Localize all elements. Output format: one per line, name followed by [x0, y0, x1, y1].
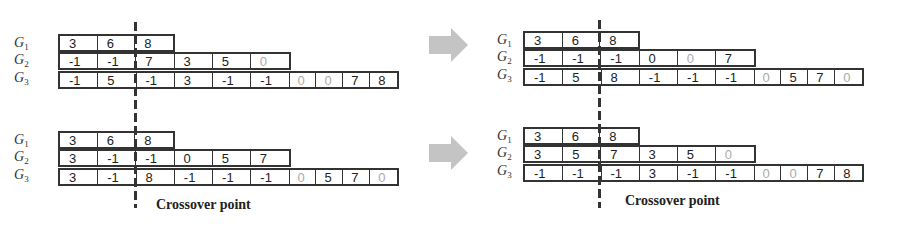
gene-cell: 8	[602, 70, 640, 84]
gene-cell: -1	[98, 170, 136, 184]
crossover-line-left	[134, 22, 137, 208]
label-g3: G3	[14, 166, 29, 188]
gene-cell: 3	[60, 36, 98, 50]
label-g3: G3	[497, 66, 512, 88]
gene-cell: 0	[835, 70, 862, 84]
gene-cell: 5	[316, 170, 343, 184]
gene-cell: 7	[251, 151, 289, 165]
gene-cell: -1	[213, 73, 251, 87]
gene-cell: 0	[370, 170, 397, 184]
gene-cell: 6	[563, 129, 601, 143]
gene-cell: 3	[175, 73, 213, 87]
gene-cell: 5	[563, 147, 601, 161]
gene-cell: -1	[525, 166, 563, 180]
gene-cell: 5	[781, 70, 808, 84]
gene-cell: 3	[525, 129, 563, 143]
crossover-caption-left: Crossover point	[156, 197, 251, 213]
gene-cell: 7	[343, 170, 370, 184]
gene-cell: -1	[175, 170, 213, 184]
gene-cell: 5	[213, 54, 251, 68]
gene-cell: 3	[525, 147, 563, 161]
gene-cell: -1	[678, 166, 716, 180]
gene-cell: -1	[137, 73, 175, 87]
gene-cell: 0	[175, 151, 213, 165]
label-g3: G3	[14, 69, 29, 91]
gene-cell: 5	[563, 70, 601, 84]
gene-cell: -1	[716, 70, 754, 84]
gene-cell: 6	[563, 33, 601, 47]
gene-cell: -1	[98, 54, 136, 68]
gene-cell: 0	[678, 51, 716, 65]
gene-cell: 8	[137, 170, 175, 184]
gene-cell: 7	[808, 166, 835, 180]
crossover-line-right	[598, 20, 601, 208]
gene-row-g2: -1 -1 7 3 5 0	[58, 52, 291, 70]
gene-cell: 0	[755, 166, 782, 180]
gene-cell: 7	[808, 70, 835, 84]
gene-cell: -1	[601, 51, 639, 65]
gene-row-g3: -1 5 -1 3 -1 -1 0 0 7 8	[58, 71, 399, 89]
gene-cell: -1	[251, 73, 289, 87]
gene-row-g3: -1 5 8 -1 -1 -1 0 5 7 0	[523, 68, 864, 86]
gene-cell: -1	[60, 54, 98, 68]
gene-cell: 0	[251, 54, 289, 68]
gene-cell: 8	[370, 73, 397, 87]
gene-cell: 0	[290, 73, 317, 87]
gene-row-g1: 3 6 8	[523, 31, 640, 49]
gene-row-g2: -1 -1 -1 0 0 7	[523, 49, 756, 67]
gene-cell: 8	[135, 36, 173, 50]
gene-cell: 0	[316, 73, 343, 87]
gene-row-g3: -1 -1 -1 3 -1 -1 0 0 7 8	[523, 164, 864, 182]
gene-cell: -1	[98, 151, 136, 165]
gene-row-g2: 3 5 7 3 5 0	[523, 145, 756, 163]
crossover-caption-right: Crossover point	[625, 193, 720, 209]
gene-cell: 3	[175, 54, 213, 68]
gene-cell: -1	[563, 51, 601, 65]
gene-cell: 3	[60, 151, 98, 165]
gene-cell: 5	[98, 73, 136, 87]
gene-row-g1: 3 6 8	[58, 34, 175, 52]
gene-row-g1: 3 6 8	[523, 127, 640, 145]
gene-cell: 7	[343, 73, 370, 87]
gene-cell: 5	[678, 147, 716, 161]
gene-cell: 0	[716, 147, 754, 161]
gene-cell: 3	[640, 166, 678, 180]
gene-cell: 8	[600, 129, 638, 143]
gene-cell: -1	[251, 170, 289, 184]
gene-cell: -1	[640, 70, 678, 84]
gene-row-g3: 3 -1 8 -1 -1 -1 0 5 7 0	[58, 168, 399, 186]
gene-cell: -1	[213, 170, 251, 184]
gene-cell: 3	[60, 133, 98, 147]
gene-cell: 8	[135, 133, 173, 147]
gene-cell: 0	[781, 166, 808, 180]
gene-cell: 5	[213, 151, 251, 165]
gene-cell: 0	[755, 70, 782, 84]
gene-cell: 7	[136, 54, 174, 68]
gene-cell: -1	[136, 151, 174, 165]
gene-cell: 7	[601, 147, 639, 161]
arrow-right-icon	[429, 136, 469, 170]
gene-cell: -1	[602, 166, 640, 180]
gene-cell: 3	[640, 147, 678, 161]
gene-cell: 3	[60, 170, 98, 184]
gene-cell: 7	[716, 51, 754, 65]
gene-row-g2: 3 -1 -1 0 5 7	[58, 149, 291, 167]
gene-cell: -1	[716, 166, 754, 180]
gene-cell: -1	[525, 51, 563, 65]
gene-cell: 6	[98, 133, 136, 147]
gene-cell: 8	[600, 33, 638, 47]
gene-cell: 0	[290, 170, 317, 184]
gene-cell: -1	[563, 166, 601, 180]
gene-cell: 6	[98, 36, 136, 50]
gene-cell: -1	[678, 70, 716, 84]
gene-cell: 8	[835, 166, 862, 180]
label-g3: G3	[497, 162, 512, 184]
gene-row-g1: 3 6 8	[58, 131, 175, 149]
gene-cell: -1	[60, 73, 98, 87]
gene-cell: 3	[525, 33, 563, 47]
arrow-right-icon	[429, 28, 469, 62]
gene-cell: 0	[640, 51, 678, 65]
gene-cell: -1	[525, 70, 563, 84]
